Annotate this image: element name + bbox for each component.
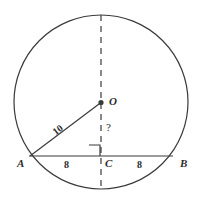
label-point-o: O <box>109 96 117 107</box>
label-segment-cb-length: 8 <box>137 160 142 170</box>
label-point-a: A <box>17 158 24 169</box>
label-point-b: B <box>180 158 187 169</box>
right-angle-marker <box>89 145 100 156</box>
geometry-diagram: O A B C 10 8 8 ? <box>0 0 201 203</box>
label-point-c: C <box>105 158 112 169</box>
radius-oa <box>30 103 101 157</box>
label-unknown-distance: ? <box>106 122 111 133</box>
diagram-canvas <box>0 0 201 203</box>
label-segment-ac-length: 8 <box>64 160 69 170</box>
center-point-dot <box>98 100 103 105</box>
